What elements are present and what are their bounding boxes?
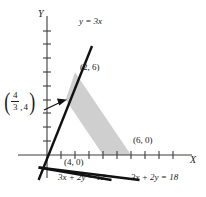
fraction-four-thirds: 4 3: [11, 91, 19, 113]
label-line-3x-2y-18: 3x + 2y = 18: [131, 173, 178, 182]
fraction-comma: ,: [20, 102, 22, 113]
label-point-2-6: (2, 6): [80, 63, 100, 72]
fraction-close-paren: ): [29, 92, 35, 113]
fraction-open-paren: (: [4, 92, 10, 113]
fraction-numerator: 4: [12, 91, 19, 100]
fraction-denominator: 3: [12, 103, 19, 112]
graph-figure: Y X y = 3x (2, 6) (4, 0) (6, 0) 3x + 2y …: [0, 0, 206, 197]
label-line-3x-2y-12: 3x + 2y = 12: [58, 173, 105, 182]
label-point-4-0: (4, 0): [64, 158, 84, 167]
label-point-four-thirds-four: ( 4 3 , 4 ): [3, 91, 36, 113]
fraction-second-coordinate: 4: [24, 102, 29, 113]
x-axis-label: X: [190, 155, 196, 165]
label-point-6-0: (6, 0): [133, 136, 153, 145]
y-axis-label: Y: [38, 9, 44, 19]
label-line-y-equals-3x: y = 3x: [79, 17, 102, 26]
